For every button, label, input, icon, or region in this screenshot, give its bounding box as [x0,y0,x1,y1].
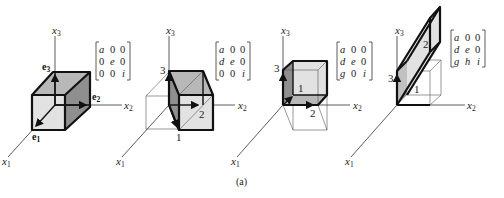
svg-text:i: i [363,68,366,79]
svg-text:x3: x3 [165,24,175,38]
svg-text:a: a [219,44,224,55]
svg-text:i: i [242,68,245,79]
svg-text:0: 0 [465,32,470,43]
label-2: 2 [199,108,205,120]
svg-text:e: e [465,44,470,55]
svg-text:e: e [230,56,235,67]
label-3: 3 [274,62,280,74]
svg-text:e: e [351,56,356,67]
svg-text:g: g [454,56,459,67]
label-1: 1 [176,131,182,143]
svg-text:g: g [340,68,345,79]
panel-1-unit-cube: x3 x2 x1 e3 e2 e1 a 0 0 0 e 0 0 0 i [1,24,133,169]
figure-caption: (a) [236,176,247,188]
svg-text:d: d [219,56,225,67]
label-1: 1 [414,83,420,95]
e3-label: e3 [42,61,50,74]
x1-label: x1 [1,155,11,169]
svg-text:a: a [340,44,345,55]
matrix-2: a 0 0 d e 0 0 0 i [216,42,250,80]
svg-text:0: 0 [240,44,245,55]
svg-text:0: 0 [230,68,235,79]
matrix-3: a 0 0 d e 0 g 0 i [337,42,372,80]
x3-label: x3 [51,24,61,38]
panel-3-shear-dg: x3 x2 x1 3 1 2 a 0 0 d e 0 g 0 i [230,24,372,169]
svg-text:0: 0 [351,68,356,79]
svg-text:0: 0 [351,44,356,55]
panel-2-shear-d: x3 x2 x1 3 2 1 a 0 0 d e 0 0 0 i [115,24,250,169]
svg-text:e: e [110,56,115,67]
svg-text:d: d [340,56,346,67]
svg-text:0: 0 [110,44,115,55]
svg-text:x2: x2 [237,99,247,113]
svg-text:x2: x2 [352,99,362,113]
svg-text:x2: x2 [466,99,476,113]
svg-text:x3: x3 [394,24,404,38]
x2-label: x2 [123,99,133,113]
label-3: 3 [388,72,394,84]
svg-text:0: 0 [120,56,125,67]
svg-text:0: 0 [120,44,125,55]
svg-text:0: 0 [230,44,235,55]
svg-text:d: d [454,44,460,55]
e1-label: e1 [32,131,40,144]
svg-text:x1: x1 [230,155,240,169]
svg-text:0: 0 [240,56,245,67]
label-2: 2 [423,38,429,50]
label-1: 1 [298,82,304,94]
svg-text:0: 0 [361,56,366,67]
matrix-4: a 0 0 d e 0 g h i [451,30,485,67]
svg-text:x1: x1 [115,155,125,169]
svg-text:a: a [454,32,459,43]
matrix-1: a 0 0 0 e 0 0 0 i [96,42,130,80]
svg-text:a: a [99,44,104,55]
svg-text:h: h [465,56,470,67]
panel-4-shear-dgh: x3 x2 x1 3 2 1 a 0 0 d e 0 g h i [344,7,485,169]
svg-text:x1: x1 [344,155,354,169]
label-3: 3 [160,64,166,76]
svg-text:0: 0 [475,44,480,55]
svg-text:0: 0 [110,68,115,79]
svg-text:0: 0 [99,68,104,79]
svg-text:0: 0 [219,68,224,79]
svg-text:0: 0 [99,56,104,67]
linear-transform-diagram: x3 x2 x1 e3 e2 e1 a 0 0 0 e 0 0 0 i [0,0,504,198]
svg-text:0: 0 [361,44,366,55]
svg-text:i: i [477,56,480,67]
e2-label: e2 [92,91,100,104]
svg-text:0: 0 [475,32,480,43]
svg-text:x3: x3 [280,24,290,38]
svg-text:i: i [122,68,125,79]
label-2: 2 [310,107,316,119]
